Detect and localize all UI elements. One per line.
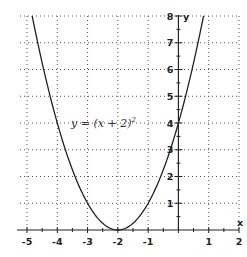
y-tick-label: 4: [167, 118, 174, 129]
y-tick-label: 8: [167, 11, 174, 22]
x-tick-label: -5: [22, 236, 33, 247]
x-tick-label: 1: [205, 236, 212, 247]
x-tick-label: -2: [113, 236, 124, 247]
x-axis-label: x: [237, 217, 243, 228]
y-tick-label: 5: [167, 91, 174, 102]
y-tick-label: 6: [167, 64, 174, 75]
x-tick-label: -1: [143, 236, 154, 247]
y-tick-label: 2: [167, 171, 174, 182]
x-tick-label: -4: [52, 236, 63, 247]
y-axis-label: y: [183, 11, 190, 22]
parabola-chart: -5-4-3-2-11212345678 y = (x + 2)2 x y: [0, 0, 247, 257]
y-tick-label: 1: [167, 198, 174, 209]
equation-label: y = (x + 2)2: [70, 116, 136, 130]
tick-labels: -5-4-3-2-11212345678: [22, 11, 243, 248]
x-tick-label: 2: [236, 236, 243, 247]
y-tick-label: 7: [167, 37, 174, 48]
x-tick-label: -3: [82, 236, 93, 247]
